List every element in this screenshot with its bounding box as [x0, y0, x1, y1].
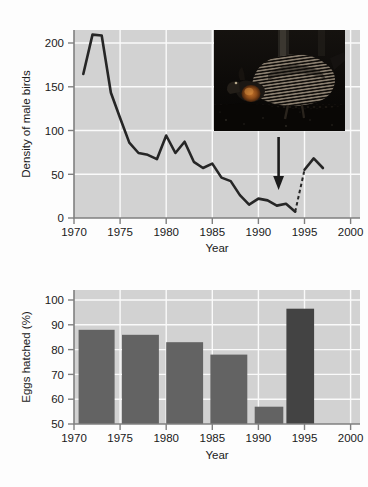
bar-y-ticklabel-80: 80	[51, 344, 64, 356]
line-chart-y-ticklabels: 0 50 100 150 200	[45, 37, 64, 224]
line-x-ticklabel-1975: 1975	[107, 226, 133, 238]
bar-x-ticklabel-1995: 1995	[292, 432, 318, 444]
line-x-ticklabel-1995: 1995	[292, 226, 318, 238]
bar-chart-x-ticklabels: 1970 1975 1980 1985 1990 1995 2000	[61, 432, 363, 444]
bar-y-ticklabel-50: 50	[51, 418, 64, 430]
bar-x-ticklabel-1985: 1985	[200, 432, 226, 444]
bar-chart-y-ticklabels: 50 60 70 80 90 100	[45, 294, 64, 430]
line-y-ticklabel-2: 100	[45, 125, 64, 137]
line-chart-svg: 0 50 100 150 200 1970 1975 1980 1985 199…	[0, 0, 368, 255]
bar-chart-x-ticks	[74, 424, 351, 430]
bar-chart-x-axis-title: Year	[205, 449, 228, 461]
line-x-ticklabel-1980: 1980	[153, 226, 179, 238]
bar-y-ticklabel-90: 90	[51, 319, 64, 331]
bar-chart-y-axis-title: Eggs hatched (%)	[20, 311, 32, 403]
line-chart-y-ticks	[68, 43, 74, 218]
bar-1970-1974	[79, 330, 115, 424]
bar-x-ticklabel-1990: 1990	[246, 432, 272, 444]
line-x-ticklabel-2000: 2000	[338, 226, 364, 238]
bar-1980-1984	[166, 342, 203, 424]
bar-x-ticklabel-1975: 1975	[107, 432, 133, 444]
line-x-ticklabel-1990: 1990	[246, 226, 272, 238]
line-chart-x-ticks	[74, 218, 351, 224]
bar-chart-y-ticks	[68, 300, 74, 424]
line-chart-x-axis-title: Year	[205, 242, 228, 254]
line-y-ticklabel-3: 150	[45, 81, 64, 93]
line-chart-panel: 0 50 100 150 200 1970 1975 1980 1985 199…	[0, 0, 368, 255]
line-x-ticklabel-1970: 1970	[61, 226, 87, 238]
prairie-chicken-inset	[214, 30, 346, 131]
bar-x-ticklabel-1980: 1980	[153, 432, 179, 444]
line-chart-x-ticklabels: 1970 1975 1980 1985 1990 1995 2000	[61, 226, 363, 238]
line-chart-y-axis-title: Density of male birds	[20, 70, 32, 178]
scientific-figure: 0 50 100 150 200 1970 1975 1980 1985 199…	[0, 0, 368, 487]
bar-1995-1997	[286, 309, 314, 424]
bar-y-ticklabel-60: 60	[51, 393, 64, 405]
bar-y-ticklabel-100: 100	[45, 294, 64, 306]
bar-1985-1989	[210, 355, 247, 424]
bar-x-ticklabel-2000: 2000	[338, 432, 364, 444]
bar-1990-1994	[255, 407, 284, 424]
line-y-ticklabel-4: 200	[45, 37, 64, 49]
bar-y-ticklabel-70: 70	[51, 369, 64, 381]
bar-x-ticklabel-1970: 1970	[61, 432, 87, 444]
bar-chart-svg: 50 60 70 80 90 100 1970 1975 1980 1985 1…	[0, 255, 368, 487]
line-y-ticklabel-1: 50	[51, 169, 64, 181]
bar-1975-1979	[122, 335, 159, 424]
line-x-ticklabel-1985: 1985	[200, 226, 226, 238]
bar-chart-panel: 50 60 70 80 90 100 1970 1975 1980 1985 1…	[0, 255, 368, 487]
line-y-ticklabel-0: 0	[58, 212, 64, 224]
